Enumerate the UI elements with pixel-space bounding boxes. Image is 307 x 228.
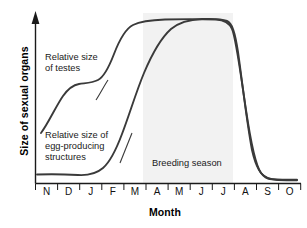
x-tick-label-nov: N bbox=[38, 186, 56, 197]
x-axis-title: Month bbox=[110, 206, 220, 218]
x-tick-label-feb: F bbox=[104, 186, 122, 197]
y-axis-arrow-icon bbox=[32, 11, 40, 24]
x-tick-label-dec: D bbox=[60, 186, 78, 197]
x-tick-label-jul: J bbox=[214, 186, 232, 197]
x-tick-label-aug: A bbox=[236, 186, 254, 197]
annotation-egg-producing-structures: Relative size of egg-producing structure… bbox=[45, 130, 108, 164]
x-tick-label-may: M bbox=[170, 186, 188, 197]
x-tick-label-jan: J bbox=[82, 186, 100, 197]
y-axis-title: Size of sexual organs bbox=[18, 21, 30, 181]
eggs-label-leader-line bbox=[120, 133, 132, 163]
x-tick-label-sep: S bbox=[259, 186, 277, 197]
x-tick-label-jun: J bbox=[192, 186, 210, 197]
annotation-breeding-season: Breeding season bbox=[152, 158, 222, 169]
x-tick-label-oct: O bbox=[281, 186, 299, 197]
x-tick-label-mar: M bbox=[126, 186, 144, 197]
testes-label-leader-line bbox=[96, 80, 108, 100]
x-tick-label-apr: A bbox=[148, 186, 166, 197]
annotation-testes: Relative size of testes bbox=[45, 52, 98, 74]
chart-figure: Size of sexual organs Month N D J F M A … bbox=[0, 0, 307, 228]
